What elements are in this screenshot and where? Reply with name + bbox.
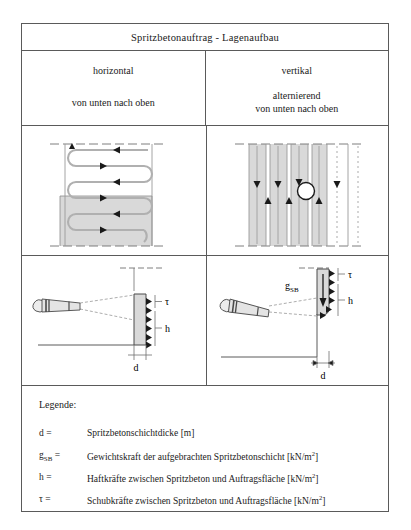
caption-cell-horizontal: horizontal von unten nach oben [22, 51, 206, 125]
vertical-stripes-diagram [207, 126, 391, 255]
arrow-down-4 [334, 181, 341, 188]
legend-text-tau: Schubkräfte zwischen Spritzbeton und Auf… [87, 494, 325, 506]
turnaround-loop-icon [298, 183, 315, 200]
force-arrowheads [146, 298, 152, 349]
label-h: h [165, 323, 170, 334]
legend-text-d: Spritzbetonschichtdicke [m] [87, 428, 194, 438]
caption-right-direction-line2: von unten nach oben [255, 102, 338, 115]
legend-symbol-h: h = [39, 472, 77, 482]
label-tau: τ [348, 269, 352, 280]
force-cell-horizontal: τ h d [22, 256, 207, 385]
figure-title-bar: Spritzbetonauftrag - Lagenaufbau [22, 24, 388, 51]
spray-cone [269, 298, 317, 316]
figure-frame: Spritzbetonauftrag - Lagenaufbau horizon… [21, 23, 389, 512]
label-tau: τ [165, 296, 169, 307]
spray-cone [80, 295, 134, 320]
tau-bracket [338, 268, 345, 281]
force-cell-vertical: gSB [207, 256, 391, 385]
legend-symbol-d: d = [39, 428, 77, 438]
legend-row-d: d = Spritzbetonschichtdicke [m] [39, 428, 375, 448]
force-diagram-vertical: gSB [207, 256, 391, 385]
tau-bracket [155, 295, 162, 308]
arrow-left-2 [113, 179, 120, 186]
legend-row-tau: τ = Schubkräfte zwischen Spritzbeton und… [39, 494, 375, 514]
h-bracket [338, 284, 345, 316]
pattern-cell-vertical [207, 126, 391, 255]
legend-row-gsb: gSB = Gewichtskraft der aufgebrachten Sp… [39, 450, 375, 470]
pattern-cell-horizontal [22, 126, 207, 255]
arrow-left-1 [113, 147, 120, 154]
pending-stripe-centrelines [337, 146, 358, 244]
column-captions: horizontal von unten nach oben vertikal … [22, 51, 388, 126]
shotcrete-layer [134, 294, 146, 345]
horizontal-serpentine-diagram [22, 126, 206, 255]
label-d: d [321, 370, 326, 381]
caption-cell-vertical: vertikal alternierend von unten nach obe… [206, 51, 389, 125]
caption-left-mode: horizontal [93, 65, 134, 76]
page-title: Spritzbetonauftrag - Lagenaufbau [131, 32, 279, 43]
caption-right-direction-line1: alternierend [255, 89, 338, 102]
legend-symbol-tau: τ = [39, 494, 77, 504]
scanned-figure-page: Spritzbetonauftrag - Lagenaufbau horizon… [0, 0, 411, 530]
d-dimension [128, 345, 152, 360]
d-dimension [311, 351, 335, 368]
caption-right-mode: vertikal [281, 65, 312, 76]
legend-text-h: Haftkräfte zwischen Spritzbeton und Auft… [87, 472, 318, 484]
caption-right-direction: alternierend von unten nach oben [255, 89, 338, 115]
label-d: d [134, 362, 139, 373]
force-diagram-horizontal: τ h d [22, 256, 206, 385]
h-bracket [155, 311, 162, 346]
force-diagram-row: τ h d [22, 256, 388, 386]
legend-symbol-gsb: gSB = [39, 450, 77, 463]
legend-section: Legende: d = Spritzbetonschichtdicke [m]… [22, 386, 388, 512]
pattern-row [22, 126, 388, 256]
label-h: h [348, 295, 353, 306]
sprayed-area-shading [60, 196, 152, 246]
caption-left-direction: von unten nach oben [72, 96, 155, 109]
legend-text-gsb: Gewichtskraft der aufgebrachten Spritzbe… [87, 450, 318, 462]
spray-nozzle-icon [33, 299, 80, 312]
legend-row-h: h = Haftkräfte zwischen Spritzbeton und … [39, 472, 375, 492]
spray-nozzle-icon [219, 298, 269, 317]
label-gsb: gSB [285, 280, 299, 294]
sprayed-stripes-shading [249, 144, 327, 246]
legend-title: Legende: [39, 399, 76, 410]
arrow-right-1 [100, 163, 107, 170]
